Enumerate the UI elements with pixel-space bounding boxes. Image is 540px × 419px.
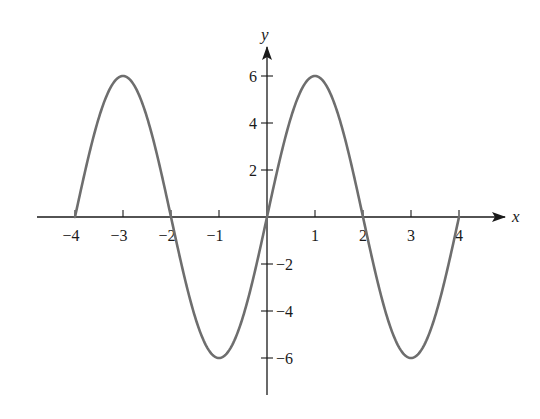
y-tick-label: −6: [276, 350, 293, 367]
x-tick-label: −4: [62, 227, 79, 244]
y-tick-label: −4: [276, 303, 293, 320]
x-axis-label: x: [511, 207, 520, 226]
x-tick-label: −3: [110, 227, 127, 244]
x-tick-label: −1: [206, 227, 223, 244]
y-tick-label: 6: [249, 68, 257, 85]
y-tick-label: −2: [276, 256, 293, 273]
y-axis-label: y: [259, 25, 269, 44]
y-tick-label: 4: [249, 115, 257, 132]
x-tick-label: 1: [311, 227, 319, 244]
y-tick-label: 2: [249, 162, 257, 179]
x-tick-label: 3: [407, 227, 415, 244]
function-plot: −4−3−2−11234 642−2−4−6 x y: [0, 0, 540, 419]
